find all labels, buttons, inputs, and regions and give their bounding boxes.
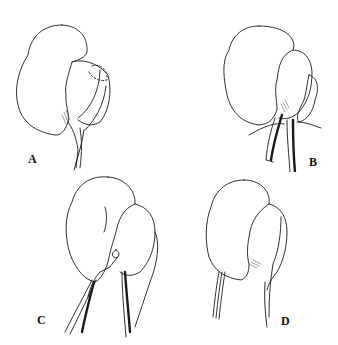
panel-c: C — [0, 172, 169, 345]
kidney-illustration-c — [0, 172, 169, 345]
panel-d: D — [169, 172, 338, 345]
panel-b: B — [169, 0, 338, 172]
kidney-illustration-b — [169, 0, 338, 172]
panel-label-b: B — [309, 155, 317, 170]
panel-a: A — [0, 0, 169, 172]
panel-label-a: A — [28, 152, 37, 167]
kidney-illustration-a — [0, 0, 169, 172]
panel-label-d: D — [281, 314, 290, 329]
kidney-illustration-d — [169, 172, 338, 345]
panel-label-c: C — [37, 313, 46, 328]
